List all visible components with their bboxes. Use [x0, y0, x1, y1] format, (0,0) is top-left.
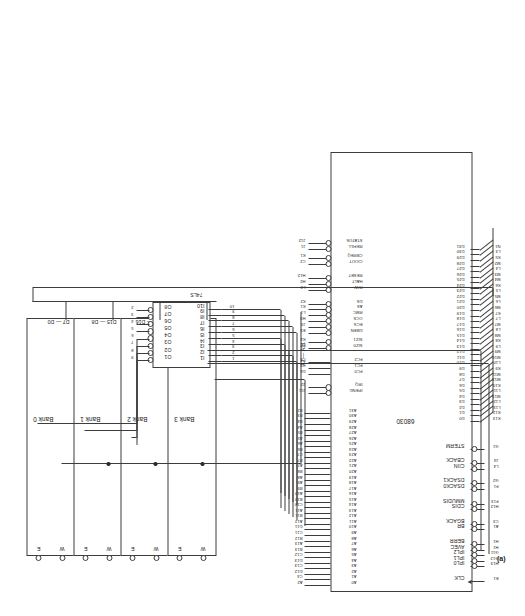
cpu-data-pin-label: D7 — [459, 377, 464, 381]
wire-v — [470, 338, 479, 339]
cpu-address-pin-label: A26 — [348, 436, 356, 440]
bank-pin-write: W — [59, 546, 64, 551]
inversion-bubble-icon — [200, 555, 206, 561]
cpu-address-pin-label: A14 — [348, 502, 356, 506]
wire-h — [288, 321, 289, 499]
wire-v — [208, 320, 221, 321]
cpu-data-pin-number: M5 — [494, 294, 500, 298]
cpu-address-pin-number: C11 — [294, 530, 302, 534]
decoder-output-pin: 7 — [131, 340, 133, 344]
cpu-address-pin-number: B9 — [297, 486, 302, 490]
cpu-left-pin-label: CIIN — [453, 463, 464, 468]
cpu-data-pin-label: D30 — [456, 249, 464, 253]
cpu-address-pin-label: A27 — [348, 430, 356, 434]
wire-v — [470, 255, 479, 256]
wire-v — [304, 579, 330, 580]
cpu-control-pin-number: H2 — [300, 279, 305, 283]
memory-bank-name: Bank 1 — [79, 416, 100, 422]
cpu-control-pin-label: CBREQ — [347, 253, 362, 257]
cpu-data-pin-number: M4 — [494, 277, 500, 281]
wire-v — [304, 546, 330, 547]
cpu-control-pin-label: DBEN — [350, 328, 362, 332]
cpu-data-pin-number: L3 — [495, 249, 500, 253]
inversion-bubble-icon — [325, 384, 331, 390]
cpu-left-pin-number: J4 — [493, 458, 498, 462]
wire-h — [280, 310, 281, 493]
decoder-input-pin: 9 — [232, 309, 234, 313]
wire-v — [221, 344, 284, 345]
decoder-input-pin: 10 — [229, 304, 234, 308]
wire-v — [304, 563, 330, 564]
decoder-input-label: I4 — [199, 337, 204, 342]
cpu-name-label: 68030 — [396, 418, 414, 424]
wire-v — [470, 354, 479, 355]
cpu-data-pin-label: D15 — [456, 333, 464, 337]
decoder-input-pin: 6 — [232, 327, 234, 331]
cpu-address-pin-label: A23 — [348, 452, 356, 456]
wire-v — [304, 446, 330, 447]
cpu-address-pin-number: C10 — [294, 502, 302, 506]
wire-v — [304, 485, 330, 486]
wire-v — [221, 315, 284, 316]
wire-v — [32, 287, 492, 288]
decoder-name-label: 74LS — [190, 292, 202, 297]
decoder-output-label: O4 — [164, 332, 171, 337]
cpu-data-pin-label: D3 — [459, 399, 464, 403]
cpu-data-pin-label: D9 — [459, 366, 464, 370]
cpu-control-pin-label: SIZ1 — [353, 337, 362, 341]
wire-v — [470, 271, 479, 272]
cpu-address-pin-number: B12 — [294, 536, 302, 540]
wire-v — [136, 346, 149, 347]
cpu-data-pin-number: K7 — [495, 310, 500, 314]
decoder-input-label: I1 — [199, 355, 204, 360]
wire-v — [470, 277, 479, 278]
inversion-bubble-icon — [153, 555, 159, 561]
decoder-output-pin: 6 — [131, 333, 133, 337]
cpu-control-pin-number: J12 — [298, 238, 305, 242]
inversion-bubble-icon — [325, 324, 331, 330]
cpu-left-pin-label: CBACK — [446, 457, 464, 462]
wire-v — [304, 491, 330, 492]
wire-v — [32, 301, 216, 302]
cpu-address-pin-number: B13 — [294, 547, 302, 551]
decoder-input-pin: 7 — [232, 321, 234, 325]
cpu-address-pin-number: A13 — [294, 541, 302, 545]
wire-v — [470, 360, 479, 361]
cpu-address-pin-number: B8 — [297, 469, 302, 473]
wire-v — [308, 368, 330, 369]
cpu-data-pin-label: D8 — [459, 372, 464, 376]
wire-v — [84, 430, 136, 431]
wire-v — [470, 415, 479, 416]
inversion-bubble-icon — [325, 255, 331, 261]
cpu-control-pin-label: AS — [356, 304, 362, 308]
decoder-output-label: O1 — [164, 354, 171, 359]
cpu-control-pin-number: H12 — [297, 273, 305, 277]
inversion-bubble-icon — [325, 246, 331, 252]
cpu-data-pin-label: D25 — [456, 277, 464, 281]
wire-v — [37, 423, 136, 424]
cpu-address-pin-label: A6 — [351, 547, 356, 551]
cpu-control-pin-label: STATUS — [346, 238, 362, 242]
wire-v — [470, 421, 479, 422]
wire-v — [304, 480, 330, 481]
cpu-control-pin-number: K2 — [300, 299, 305, 303]
cpu-data-pin-label: D26 — [456, 272, 464, 276]
inversion-bubble-icon — [325, 261, 331, 267]
wire-v — [304, 457, 330, 458]
cpu-left-pin-label: STERM — [445, 442, 464, 447]
decoder-output-pin: 4 — [131, 319, 133, 323]
wire-h — [292, 327, 293, 502]
wire-v — [131, 437, 136, 438]
cpu-control-pin-label: HALT — [351, 279, 362, 283]
inversion-bubble-icon — [325, 330, 331, 336]
wire-v — [470, 388, 479, 389]
wire-h — [480, 351, 481, 550]
wire-h — [300, 312, 301, 464]
inversion-bubble-icon — [176, 555, 182, 561]
cpu-address-pin-label: A0 — [351, 580, 356, 584]
wire-v — [470, 282, 479, 283]
cpu-data-pin-number: N1 — [495, 244, 500, 248]
clock-arrow-icon — [467, 580, 471, 584]
cpu-data-pin-label: D27 — [456, 266, 464, 270]
cpu-address-pin-label: A21 — [348, 463, 356, 467]
